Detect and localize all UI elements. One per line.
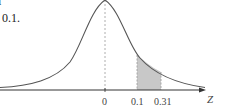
tick-label-0-31: 0.31	[154, 97, 172, 107]
axis-label-z: Z	[207, 94, 213, 104]
normal-curve	[0, 0, 205, 88]
tick-label-0-1: 0.1	[131, 97, 144, 107]
x-axis-arrow-icon	[199, 88, 206, 93]
tick-label-zero: 0	[102, 97, 107, 107]
normal-distribution-diagram	[0, 0, 226, 109]
